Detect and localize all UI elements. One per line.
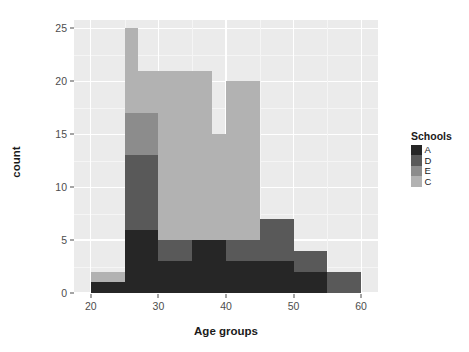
bar-segment — [192, 71, 212, 240]
bar-segment — [294, 251, 328, 272]
y-tick-mark — [70, 28, 74, 29]
legend-label: D — [425, 156, 432, 166]
legend-row: C — [411, 176, 452, 187]
gridline-x-minor — [327, 20, 328, 293]
plot-panel — [74, 20, 378, 293]
gridline-x-major — [361, 20, 362, 293]
x-tick-mark — [90, 294, 91, 298]
legend-key-swatch — [411, 155, 422, 166]
legend-row: E — [411, 166, 452, 177]
bar-segment — [138, 155, 158, 229]
bar-segment — [226, 261, 260, 293]
bar-segment — [226, 81, 260, 240]
x-tick-label: 30 — [153, 301, 165, 312]
bar-segment — [91, 272, 125, 283]
y-tick-mark — [70, 134, 74, 135]
x-tick-label: 40 — [220, 301, 232, 312]
bar-segment — [280, 219, 294, 261]
x-tick-mark — [158, 294, 159, 298]
bar-segment — [125, 155, 139, 229]
bar-segment — [280, 261, 294, 293]
bar-segment — [91, 282, 125, 293]
x-tick-mark — [226, 294, 227, 298]
x-tick-mark — [361, 294, 362, 298]
x-tick-label: 20 — [85, 301, 97, 312]
y-tick-mark — [70, 240, 74, 241]
x-tick-label: 60 — [355, 301, 367, 312]
y-tick-label: 25 — [55, 23, 67, 34]
bar-segment — [327, 272, 361, 293]
x-tick-label: 50 — [288, 301, 300, 312]
legend-key-swatch — [411, 166, 422, 177]
legend-row: A — [411, 145, 452, 156]
y-tick-mark — [70, 187, 74, 188]
x-tick-mark — [293, 294, 294, 298]
bar-segment — [158, 240, 192, 261]
bar-segment — [125, 230, 139, 293]
x-axis-title: Age groups — [74, 325, 378, 337]
bar-segment — [138, 71, 158, 113]
y-tick-mark — [70, 293, 74, 294]
bar-segment — [158, 261, 192, 293]
bar-segment — [260, 261, 280, 293]
bar-segment — [138, 113, 158, 155]
y-tick-label: 0 — [61, 288, 67, 299]
legend: Schools ADEC — [411, 131, 452, 187]
y-tick-label: 5 — [61, 235, 67, 246]
legend-items: ADEC — [411, 145, 452, 187]
bar-segment — [294, 272, 328, 293]
bar-segment — [138, 230, 158, 293]
bar-segment — [125, 113, 139, 155]
bar-segment — [226, 240, 260, 261]
bar-segment — [212, 134, 226, 240]
chart-root: 0510152025 2030405060 Age groups count S… — [0, 0, 469, 352]
y-tick-label: 20 — [55, 76, 67, 87]
legend-title: Schools — [411, 131, 452, 143]
bar-segment — [192, 240, 212, 293]
legend-label: E — [425, 166, 431, 176]
bar-segment — [260, 219, 280, 261]
legend-row: D — [411, 155, 452, 166]
y-tick-label: 10 — [55, 182, 67, 193]
gridline-x-major — [90, 20, 91, 293]
y-axis-title: count — [10, 102, 22, 222]
legend-label: A — [425, 145, 431, 155]
bar-segment — [125, 28, 139, 113]
legend-key-swatch — [411, 145, 422, 156]
y-tick-label: 15 — [55, 129, 67, 140]
legend-label: C — [425, 177, 432, 187]
bar-segment — [212, 240, 226, 293]
bar-segment — [158, 71, 192, 240]
legend-key-swatch — [411, 176, 422, 187]
y-tick-mark — [70, 81, 74, 82]
